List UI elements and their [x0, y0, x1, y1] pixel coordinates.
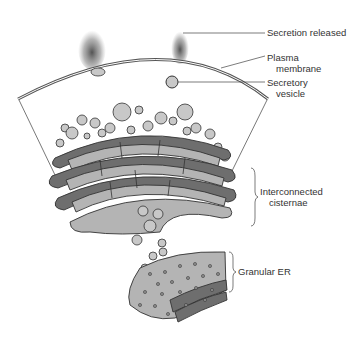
- secretion-plume-right: [171, 28, 189, 64]
- label-text: Secretion released: [267, 27, 346, 38]
- label-text: vesicle: [267, 88, 308, 99]
- label-secretion-released: Secretion released: [267, 27, 346, 38]
- label-plasma-membrane: Plasma membrane: [267, 52, 321, 74]
- label-granular-er: Granular ER: [238, 266, 291, 277]
- brace-granular-er: [229, 252, 236, 292]
- secretory-vesicle: [91, 68, 105, 76]
- label-interconnected-cisternae: Interconnected cisternae: [260, 186, 323, 208]
- label-text: Plasma: [267, 52, 321, 63]
- brace-cisternae: [251, 168, 258, 226]
- secretion-plume-left: [78, 26, 106, 70]
- secretory-vesicle: [166, 76, 178, 88]
- golgi-diagram: [0, 0, 360, 340]
- cisternae-stack: [49, 136, 236, 234]
- label-text: Secretory: [267, 77, 308, 88]
- sector-edge-right: [230, 100, 267, 175]
- leader-membrane: [221, 56, 265, 68]
- sector-edge-left: [19, 100, 55, 175]
- label-text: Granular ER: [238, 266, 291, 277]
- label-text: membrane: [267, 63, 321, 74]
- label-secretory-vesicle: Secretory vesicle: [267, 77, 308, 99]
- label-text: cisternae: [260, 197, 323, 208]
- granular-er: [129, 252, 227, 322]
- label-text: Interconnected: [260, 186, 323, 197]
